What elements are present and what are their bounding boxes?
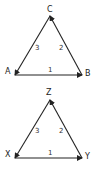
edge-label-right: 2 — [59, 45, 63, 52]
vertex-label-left: A — [5, 68, 10, 76]
edge-2-arrow — [50, 100, 82, 158]
vertex-label-left: X — [5, 151, 10, 159]
edge-label-right: 2 — [59, 128, 63, 135]
edge-2-arrow — [50, 16, 82, 75]
edge-3-arrow — [15, 100, 50, 158]
vertex-label-right: B — [85, 70, 91, 78]
vertex-label-right: Y — [85, 153, 90, 161]
edge-label-bottom: 1 — [48, 67, 52, 74]
triangle-xyz: Z X Y 1 2 3 — [0, 84, 97, 168]
edge-3-arrow — [15, 16, 50, 75]
edge-label-bottom: 1 — [48, 150, 52, 157]
vertex-label-top: Z — [46, 89, 51, 97]
triangle-abc: C A B 1 2 3 — [0, 0, 97, 84]
edge-label-left: 3 — [35, 128, 39, 135]
vertex-label-top: C — [47, 6, 53, 14]
edge-label-left: 3 — [35, 45, 39, 52]
